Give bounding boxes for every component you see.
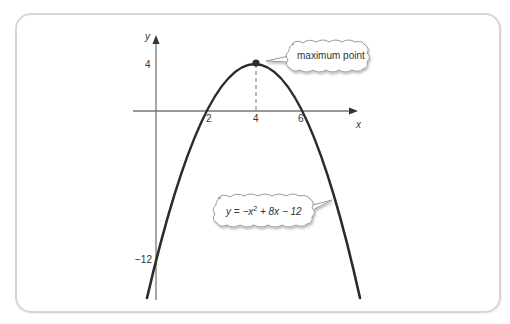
maximum-point-dot	[252, 59, 259, 66]
x-tick-6: 6	[298, 114, 304, 124]
x-axis	[133, 108, 358, 115]
y-axis-label: y	[145, 32, 150, 42]
y-tick-minus-12: −12	[135, 255, 152, 265]
equation-prefix: y = −x	[226, 206, 253, 217]
parabola-plot	[0, 0, 510, 324]
callout-maximum-point-text: maximum point	[297, 51, 365, 61]
x-tick-2: 2	[206, 114, 212, 124]
equation-text: y = −x2 + 8x − 12	[226, 205, 302, 217]
x-axis-label: x	[356, 120, 361, 130]
x-tick-4: 4	[253, 114, 259, 124]
y-tick-4: 4	[145, 60, 151, 70]
x-axis-arrow-icon	[349, 108, 358, 115]
y-axis-arrow-icon	[153, 35, 160, 44]
parabola-curve	[147, 64, 360, 298]
equation-suffix: + 8x − 12	[257, 206, 301, 217]
